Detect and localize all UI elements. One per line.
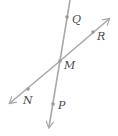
line-nr-lower (10, 61, 60, 103)
point-r (91, 30, 95, 34)
label-n: N (22, 94, 33, 107)
intersecting-lines-diagram: Q R M N P (0, 0, 118, 136)
label-p: P (57, 99, 66, 112)
label-r: R (96, 30, 105, 43)
label-m: M (63, 59, 76, 72)
point-m (58, 59, 62, 63)
point-p (51, 102, 55, 106)
point-q (65, 15, 69, 19)
diagram-canvas: Q R M N P (0, 0, 118, 136)
point-n (26, 87, 30, 91)
label-q: Q (72, 13, 81, 26)
